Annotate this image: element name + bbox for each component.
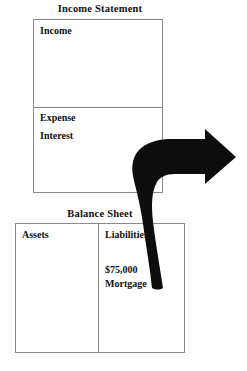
interest-label: Interest [40, 130, 73, 141]
assets-column: Assets [16, 224, 99, 352]
balance-sheet-box: Assets Liabilities $75,000 Mortgage [15, 223, 185, 353]
balance-sheet-title: Balance Sheet [15, 208, 185, 219]
assets-label: Assets [22, 229, 49, 240]
mortgage-name: Mortgage [105, 278, 147, 289]
expense-label: Expense [40, 112, 76, 123]
liabilities-label: Liabilities [105, 229, 148, 240]
mortgage-amount: $75,000 [105, 264, 138, 275]
income-row: Income [34, 20, 162, 108]
income-statement-title: Income Statement [0, 3, 200, 14]
expense-interest-row: Expense Interest [34, 108, 162, 192]
liabilities-column: Liabilities $75,000 Mortgage [99, 224, 184, 352]
income-statement-box: Income Expense Interest [33, 19, 163, 193]
diagram-canvas: Income Statement Income Expense Interest… [0, 0, 247, 371]
income-label: Income [40, 25, 72, 36]
